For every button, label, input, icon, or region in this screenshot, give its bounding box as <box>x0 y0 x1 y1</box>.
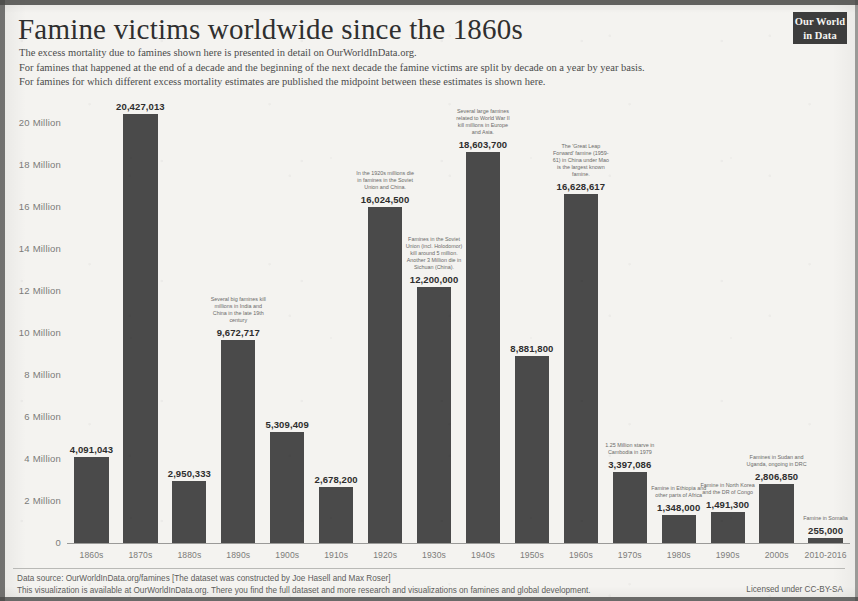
bar[interactable] <box>270 432 304 543</box>
scanned-chart-page: Famine victims worldwide since the 1860s… <box>0 0 858 601</box>
x-axis-tick-label: 1920s <box>361 550 410 560</box>
bar-group[interactable]: 20,427,013 <box>123 114 157 543</box>
bar-value-label: 12,200,000 <box>410 274 459 285</box>
x-axis-tick-label: 1880s <box>165 550 214 560</box>
bar-value-label: 16,024,500 <box>361 194 410 205</box>
y-axis-tick-label: 8 Million <box>5 369 61 380</box>
bar-group[interactable]: 12,200,000Famines in the Soviet Union (i… <box>417 287 451 543</box>
bar-annotation: Famine in North Korea and the DR of Cong… <box>698 482 758 496</box>
bar-value-label: 9,672,717 <box>217 327 260 338</box>
y-axis-tick-label: 12 Million <box>5 285 61 296</box>
bar-annotation: Famines in Sudan and Uganda, ongoing in … <box>746 454 806 468</box>
bar[interactable] <box>417 287 451 543</box>
x-axis-tick-label: 1900s <box>263 550 312 560</box>
bar-value-label: 20,427,013 <box>116 101 165 112</box>
y-axis-tick-label: 10 Million <box>5 327 61 338</box>
bar-annotation: Famines in the Soviet Union (incl. Holod… <box>404 236 464 271</box>
bar-value-label: 3,397,086 <box>608 459 651 470</box>
x-axis-tick-label: 1970s <box>605 550 654 560</box>
bar[interactable] <box>711 512 745 543</box>
bar-group[interactable]: 8,881,800 <box>515 356 549 543</box>
x-axis-tick-label: 2010-2016 <box>801 550 850 560</box>
x-axis-tick-label: 2000s <box>752 550 801 560</box>
footer-divider <box>13 568 845 569</box>
bar[interactable] <box>613 472 647 543</box>
bar-value-label: 5,309,409 <box>266 419 309 430</box>
bar-value-label: 4,091,043 <box>70 444 113 455</box>
bar-annotation: 1.25 Million starve in Cambodia in 1979 <box>600 442 660 456</box>
bar-annotation: Famine in Somalia <box>795 515 855 522</box>
y-axis-tick-label: 16 Million <box>5 201 61 212</box>
bar-group[interactable]: 3,397,0861.25 Million starve in Cambodia… <box>613 472 647 543</box>
bar[interactable] <box>221 340 255 543</box>
footer-line-2: This visualization is available at OurWo… <box>17 585 717 597</box>
bar-group[interactable]: 2,950,333 <box>172 481 206 543</box>
y-axis-tick-label: 0 <box>5 537 61 548</box>
bar-group[interactable]: 5,309,409 <box>270 432 304 543</box>
bar-group[interactable]: 2,678,200 <box>319 487 353 543</box>
y-axis-tick-label: 2 Million <box>5 495 61 506</box>
bar-value-label: 8,881,800 <box>510 343 553 354</box>
bar-annotation: Several large famines related to World W… <box>453 108 513 136</box>
famine-victims-bar-chart: 02 Million4 Million6 Million8 Million10 … <box>5 5 855 597</box>
bar[interactable] <box>172 481 206 543</box>
bar[interactable] <box>564 194 598 543</box>
bar[interactable] <box>319 487 353 543</box>
bar-value-label: 1,491,300 <box>706 499 749 510</box>
bar[interactable] <box>466 152 500 543</box>
license-note: Licensed under CC-BY-SA <box>746 585 843 594</box>
bar-group[interactable]: 4,091,043 <box>74 457 108 543</box>
bar-value-label: 1,348,000 <box>657 502 700 513</box>
bar-group[interactable]: 1,491,300Famine in North Korea and the D… <box>711 512 745 543</box>
x-axis-tick-label: 1960s <box>556 550 605 560</box>
x-axis-tick-label: 1990s <box>703 550 752 560</box>
bar-value-label: 255,000 <box>808 525 843 536</box>
x-axis-line <box>67 543 850 544</box>
bar-group[interactable]: 16,024,500In the 1920s millions die in f… <box>368 207 402 544</box>
bar[interactable] <box>74 457 108 543</box>
y-axis-tick-label: 4 Million <box>5 453 61 464</box>
bar-group[interactable]: 2,806,850Famines in Sudan and Uganda, on… <box>759 484 793 543</box>
bar[interactable] <box>515 356 549 543</box>
x-axis-tick-label: 1930s <box>410 550 459 560</box>
y-axis-tick-label: 6 Million <box>5 411 61 422</box>
bar[interactable] <box>759 484 793 543</box>
x-axis-tick-label: 1980s <box>654 550 703 560</box>
y-axis-tick-label: 20 Million <box>5 117 61 128</box>
bar[interactable] <box>662 515 696 543</box>
footer-notes: Data source: OurWorldInData.org/famines … <box>17 573 717 598</box>
x-axis-tick-label: 1860s <box>67 550 116 560</box>
y-axis-tick-label: 18 Million <box>5 159 61 170</box>
bar-value-label: 16,628,617 <box>557 181 606 192</box>
bar-group[interactable]: 16,628,617The 'Great Leap Forward' famin… <box>564 194 598 543</box>
bar-annotation: The 'Great Leap Forward' famine (1959-61… <box>551 143 611 178</box>
bar-annotation: Several big famines kill millions in Ind… <box>208 296 268 324</box>
bar-value-label: 2,678,200 <box>315 474 358 485</box>
bar-group[interactable]: 9,672,717Several big famines kill millio… <box>221 340 255 543</box>
y-axis-tick-label: 14 Million <box>5 243 61 254</box>
bar[interactable] <box>123 114 157 543</box>
bar[interactable] <box>368 207 402 544</box>
x-axis-tick-label: 1870s <box>116 550 165 560</box>
x-axis-tick-label: 1950s <box>507 550 556 560</box>
bar-annotation: In the 1920s millions die in famines in … <box>355 170 415 191</box>
x-axis-tick-label: 1940s <box>459 550 508 560</box>
footer-line-1: Data source: OurWorldInData.org/famines … <box>17 573 717 585</box>
x-axis-tick-label: 1910s <box>312 550 361 560</box>
bar-value-label: 18,603,700 <box>459 139 508 150</box>
bar-group[interactable]: 1,348,000Famine in Ethiopia and other pa… <box>662 515 696 543</box>
bar-value-label: 2,950,333 <box>168 468 211 479</box>
bar-value-label: 2,806,850 <box>755 471 798 482</box>
bar-group[interactable]: 18,603,700Several large famines related … <box>466 152 500 543</box>
x-axis-tick-label: 1890s <box>214 550 263 560</box>
